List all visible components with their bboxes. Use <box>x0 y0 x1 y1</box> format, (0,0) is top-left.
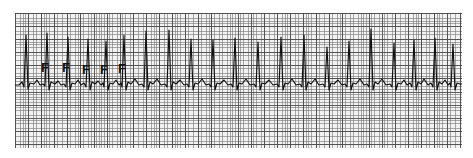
fusion-beat-label: F <box>100 63 108 76</box>
fusion-beat-label: F <box>118 62 126 75</box>
ecg-paper: FFFFF <box>15 13 462 148</box>
fusion-beat-label: F <box>41 61 49 74</box>
ecg-trace-path <box>15 29 462 90</box>
fusion-beat-label: F <box>62 61 70 74</box>
fusion-beat-label: F <box>82 63 90 76</box>
ecg-rhythm-strip-figure: FFFFF <box>0 0 473 158</box>
ecg-trace <box>15 13 462 148</box>
